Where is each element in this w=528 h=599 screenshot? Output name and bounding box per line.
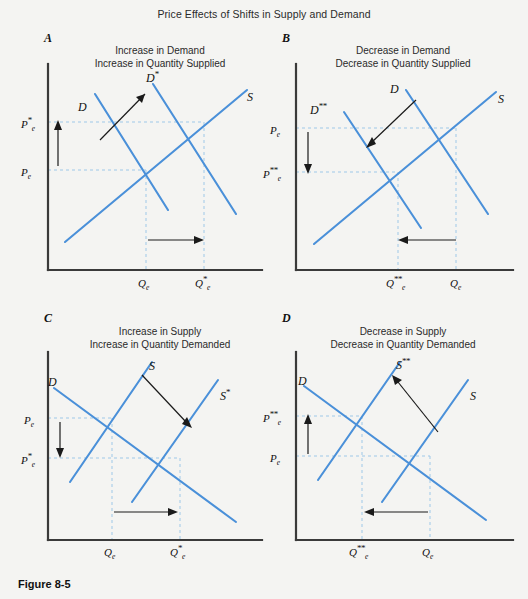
panel-b-label-supply: S [498,90,504,107]
panel-c-label-demand: D [48,373,57,390]
panel-c-curve-supply-shifted [132,380,218,502]
panel-d-letter: D [282,311,291,326]
panel-d-label-supply-original: S [470,387,476,404]
panel-c-price-original-label: Pe [24,411,34,429]
panel-d-curve-supply-shifted [318,362,400,480]
panel-c-curve-supply-original [70,362,152,482]
panel-b-price-original-label: Pe [270,121,280,139]
panel-d-shift-arrow-line [398,382,438,432]
panel-d-price-original-label: Pe [270,449,280,467]
panel-b-letter: B [282,31,290,46]
figure-title: Price Effects of Shifts in Supply and De… [0,8,528,20]
panel-a-price-new-label: P*e [21,115,35,133]
panel-a-curve-supply [65,90,247,242]
panel-b-heading-line1: Decrease in Demand [298,44,508,57]
panel-c-quantity-arrow-head [168,508,178,516]
panel-a-letter: A [44,31,52,46]
panel-d-quantity-original-label: Qe [422,543,433,561]
panel-b-plot [288,62,516,277]
panel-a-label-supply: S [247,88,253,105]
panel-b-quantity-new-label: Q**e [386,274,405,292]
panel-c-plot [40,350,265,550]
panel-b-label-demand-original: D [390,80,399,97]
panel-c-label-supply-original: S [149,357,155,374]
panel-c-price-new-label: P*e [21,451,35,469]
panel-a-price-original-label: Pe [21,163,31,181]
panel-a-quantity-original-label: Qe [138,274,149,292]
panel-d-quantity-new-label: Q**e [349,543,368,561]
panel-b-label-demand-shifted: D** [310,101,327,118]
panel-a-shift-arrow-line [100,94,145,140]
panel-c-curve-demand [54,388,236,522]
panel-c-quantity-original-label: Qe [104,543,115,561]
panel-d-curve-supply-original [382,380,468,502]
panel-b-price-new-label: P**e [263,165,281,183]
panel-c-shift-arrow-line [142,375,186,422]
panel-b-quantity-original-label: Qe [450,274,461,292]
panel-c-quantity-new-label: Q*e [170,543,185,561]
panel-a-heading-line1: Increase in Demand [55,44,265,57]
panel-b-quantity-arrow-head [398,236,408,244]
panel-b-shift-arrow-head [366,137,376,148]
panel-d-quantity-arrow-head [364,508,374,516]
panel-a-quantity-new-label: Q*e [195,274,210,292]
panel-d-plot [288,350,516,550]
panel-d-heading-line1: Decrease in Supply [298,325,508,338]
panel-c-price-arrow-head [56,448,64,458]
panel-a-curve-demand-original [95,94,168,210]
panel-a-curve-demand-shifted [153,84,236,214]
panel-a-quantity-arrow-head [194,236,204,244]
panel-d-curve-demand [304,386,486,520]
panel-a-plot [40,62,265,277]
panel-d-label-supply-shifted: S** [396,356,410,373]
panel-c-heading-line1: Increase in Supply [55,325,265,338]
panel-d-price-new-label: P**e [263,409,281,427]
panel-d-heading: Decrease in Supply Decrease in Quantity … [298,325,508,351]
panel-d-shift-arrow-head [392,375,402,385]
panel-b-shift-arrow-line [372,100,416,142]
panel-a-label-demand-shifted: D* [146,69,159,86]
panel-c-label-supply-shifted: S* [220,387,230,404]
panel-c-heading: Increase in Supply Increase in Quantity … [55,325,265,351]
panel-b-curve-supply [314,92,496,244]
panel-d-label-demand: D [298,372,307,389]
panel-a-label-demand-original: D [78,98,87,115]
panel-c-letter: C [44,311,52,326]
figure-caption: Figure 8-5 [18,578,71,590]
